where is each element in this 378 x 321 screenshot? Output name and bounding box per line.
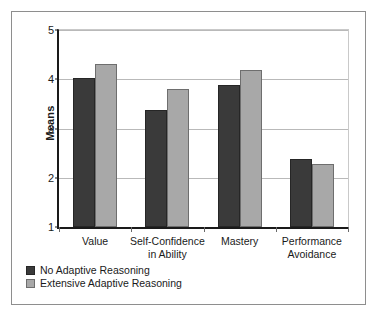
legend-label: No Adaptive Reasoning xyxy=(40,265,150,276)
x-axis-tick-mark xyxy=(276,227,277,232)
y-axis-tick-label: 4 xyxy=(48,74,54,85)
bar xyxy=(290,159,312,227)
bar xyxy=(73,78,95,227)
y-axis-tick-label: 1 xyxy=(48,222,54,233)
legend-color-swatch xyxy=(26,279,35,288)
bar xyxy=(240,70,262,227)
x-axis-category-label: Performance Avoidance xyxy=(267,235,357,260)
x-axis-tick-mark xyxy=(204,227,205,232)
bar-group xyxy=(204,30,276,227)
y-axis-tick-label: 5 xyxy=(48,25,54,36)
bar xyxy=(145,110,167,227)
legend-label: Extensive Adaptive Reasoning xyxy=(40,278,182,289)
bar xyxy=(218,85,240,227)
bar-group xyxy=(276,30,348,227)
y-axis-tick-label: 2 xyxy=(48,172,54,183)
x-axis-tick-mark xyxy=(348,227,349,232)
bar-group xyxy=(131,30,203,227)
chart-legend: No Adaptive ReasoningExtensive Adaptive … xyxy=(26,265,182,291)
bar xyxy=(95,64,117,227)
y-axis-tick-label: 3 xyxy=(48,123,54,134)
x-axis-tick-mark xyxy=(59,227,60,232)
bar xyxy=(167,89,189,227)
bar xyxy=(312,164,334,227)
legend-color-swatch xyxy=(26,266,35,275)
x-axis-tick-mark xyxy=(131,227,132,232)
figure-frame: Means 12345 ValueSelf-Confidence in Abil… xyxy=(11,11,366,305)
legend-item: Extensive Adaptive Reasoning xyxy=(26,278,182,289)
plot-area: 12345 ValueSelf-Confidence in AbilityMas… xyxy=(57,29,349,229)
legend-item: No Adaptive Reasoning xyxy=(26,265,182,276)
bar-group xyxy=(59,30,131,227)
